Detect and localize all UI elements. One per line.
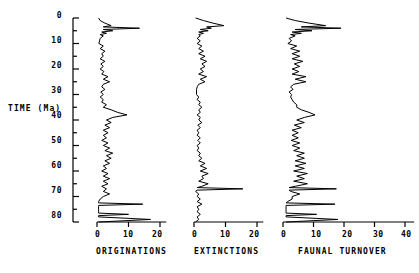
panel1-data-line [99,18,151,222]
series-group [99,18,341,222]
panel2-data-line [196,18,243,222]
axes-group [73,18,414,227]
plot-area [0,0,419,273]
figure-container: TIME (Ma) 0 10 20 30 40 50 60 70 80 0 10… [0,0,419,273]
panel3-data-line [286,18,341,222]
